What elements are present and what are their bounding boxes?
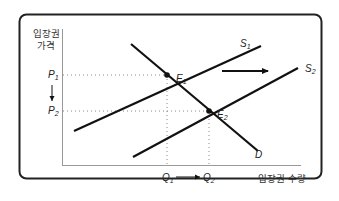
diagram-frame bbox=[20, 15, 322, 179]
supply-curve-1 bbox=[74, 46, 261, 131]
equilibrium-2-label: E2 bbox=[217, 109, 228, 121]
y-axis-label-2: 가격 bbox=[37, 40, 55, 51]
y-axis-label: 입장권 bbox=[33, 28, 60, 39]
equilibrium-point-2 bbox=[206, 108, 212, 114]
quantity-1-label: Q1 bbox=[162, 172, 174, 184]
equilibrium-1-label: E1 bbox=[176, 73, 187, 85]
price-2-label: P2 bbox=[48, 105, 59, 117]
equilibrium-point-1 bbox=[164, 72, 170, 78]
supply-curve-2 bbox=[133, 68, 298, 157]
supply-1-label: S1 bbox=[240, 38, 251, 50]
x-axis-label: 입장권 수량 bbox=[258, 173, 306, 184]
quantity-2-label: Q2 bbox=[203, 172, 215, 184]
supply-2-label: S2 bbox=[305, 63, 316, 75]
demand-label: D bbox=[255, 149, 262, 160]
price-1-label: P1 bbox=[48, 69, 59, 81]
supply-demand-diagram: 입장권 가격 입장권 수량 S1 S2 D E1 E2 P1 P2 Q1 Q2 bbox=[0, 0, 339, 201]
